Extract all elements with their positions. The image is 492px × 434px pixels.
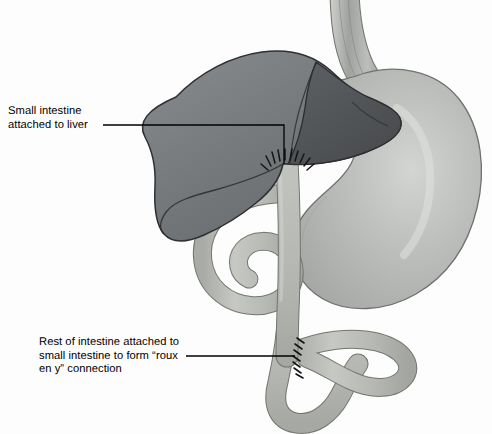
annotation-roux-en-y-connection: Rest of intestine attached to small inte… (39, 336, 179, 377)
annotation-small-intestine-attached-to-liver: Small intestine attached to liver (8, 105, 88, 132)
medical-illustration-figure: Richard Bowen smale Knoch (0, 0, 492, 434)
